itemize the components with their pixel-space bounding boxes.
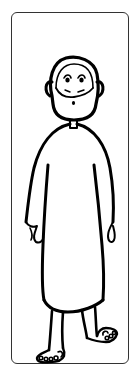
- man-illustration: [0, 0, 138, 378]
- head-icon: [46, 57, 103, 120]
- feet-icon: [37, 307, 117, 362]
- robe-icon: [26, 124, 115, 312]
